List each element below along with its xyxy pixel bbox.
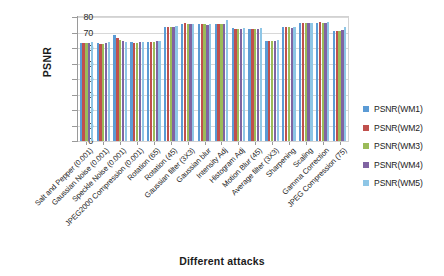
legend-item: PSNR(WM5)	[363, 174, 423, 193]
x-tick-mark	[340, 142, 341, 145]
legend-item: PSNR(WM3)	[363, 137, 423, 156]
bar-group	[264, 17, 281, 141]
legend-label: PSNR(WM4)	[374, 160, 423, 170]
x-tick-mark	[221, 142, 222, 145]
bar	[175, 26, 177, 141]
x-tick-mark	[272, 142, 273, 145]
bar-group	[213, 17, 230, 141]
x-tick-label: Scaling	[291, 146, 314, 169]
bar	[260, 28, 262, 141]
bars-layer	[78, 17, 348, 141]
bar-group	[179, 17, 196, 141]
bar-group	[146, 17, 163, 141]
bar-group	[129, 17, 146, 141]
x-tick-label: Gaussian filter (3X3)	[142, 146, 196, 200]
x-tick-mark	[323, 142, 324, 145]
x-tick-mark	[289, 142, 290, 145]
bar-group	[196, 17, 213, 141]
x-tick-mark	[120, 142, 121, 145]
bar	[91, 42, 93, 141]
bar-group	[230, 17, 247, 141]
bar	[226, 20, 228, 141]
bar-group	[281, 17, 298, 141]
legend-label: PSNR(WM3)	[374, 141, 423, 151]
x-tick-label: Salt and Pepper (0.001)	[33, 146, 95, 208]
legend-label: PSNR(WM5)	[374, 178, 423, 188]
x-tick-mark	[238, 142, 239, 145]
bar	[108, 42, 110, 141]
x-tick-mark	[306, 142, 307, 145]
x-tick-label: Speckle Noise (0.001)	[70, 146, 128, 204]
x-tick-label: Gaussian blur	[174, 146, 213, 185]
bar	[125, 42, 127, 141]
legend-item: PSNR(WM2)	[363, 119, 423, 138]
x-tick-label: Sharpening	[264, 146, 297, 179]
chart-root: 01020304050607080 PSNR Salt and Pepper (…	[0, 0, 444, 276]
x-tick-mark	[171, 142, 172, 145]
legend-item: PSNR(WM4)	[363, 156, 423, 175]
x-tick-mark	[188, 142, 189, 145]
legend-label: PSNR(WM1)	[374, 104, 423, 114]
bar	[293, 27, 295, 141]
y-axis-title: PSNR	[41, 7, 53, 117]
x-tick-label: JPEG2000 Compression (0.001)	[63, 146, 145, 228]
bar-group	[112, 17, 129, 141]
x-tick-mark	[154, 142, 155, 145]
bar	[344, 27, 346, 141]
legend-swatch-icon	[363, 125, 369, 131]
bar	[327, 22, 329, 141]
x-tick-mark	[137, 142, 138, 145]
x-tick-label: Intensity Adj	[195, 146, 229, 180]
bar-group	[162, 17, 179, 141]
bar	[209, 24, 211, 141]
x-tick-label: Gamma Correction	[280, 146, 331, 197]
bar	[192, 24, 194, 141]
bar	[310, 23, 312, 141]
bar	[142, 42, 144, 142]
x-tick-mark	[103, 142, 104, 145]
x-tick-mark	[255, 142, 256, 145]
bar	[243, 28, 245, 141]
bar	[277, 40, 279, 141]
legend-label: PSNR(WM2)	[374, 123, 423, 133]
legend-swatch-icon	[363, 162, 369, 168]
legend-swatch-icon	[363, 106, 369, 112]
x-tick-label: JPEG Compression (75)	[285, 146, 348, 209]
bar	[158, 41, 160, 141]
x-tick-label: Gaussian Noise (0.001)	[50, 146, 111, 207]
x-tick-label: Motion Blur (45)	[221, 146, 264, 189]
bar-group	[297, 17, 314, 141]
legend: PSNR(WM1)PSNR(WM2)PSNR(WM3)PSNR(WM4)PSNR…	[363, 100, 423, 193]
x-tick-mark	[205, 142, 206, 145]
legend-swatch-icon	[363, 143, 369, 149]
bar-group	[95, 17, 112, 141]
x-tick-label: Histogram Adj	[208, 146, 247, 185]
x-axis-title: Different attacks	[0, 255, 444, 267]
x-tick-label: Rotation (65)	[125, 146, 161, 182]
x-tick-label: Average filter (3X3)	[230, 146, 281, 197]
legend-item: PSNR(WM1)	[363, 100, 423, 119]
bar-group	[78, 17, 95, 141]
bar-group	[331, 17, 348, 141]
x-tick-label: Rotation (45)	[142, 146, 178, 182]
bar-group	[314, 17, 331, 141]
bar-group	[247, 17, 264, 141]
legend-swatch-icon	[363, 180, 369, 186]
